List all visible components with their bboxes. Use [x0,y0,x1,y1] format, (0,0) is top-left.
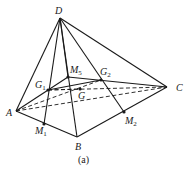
label-M2: M2 [124,115,137,128]
label-subscript: 5 [78,69,82,77]
label-main: D [54,5,63,16]
point-G2 [99,78,102,81]
label-G: G [78,90,85,101]
point-M5 [66,75,69,78]
point-G1 [46,88,49,91]
label-subscript: 2 [107,71,111,79]
segment-D-C [60,18,167,87]
label-C: C [176,82,183,93]
segment-M5-C [68,77,167,87]
label-G1: G1 [35,79,46,92]
tetrahedron-diagram: DABCM5G1G2GM1M2 (a) [0,0,188,171]
figure-caption: (a) [78,154,89,166]
label-main: G [100,66,107,77]
point-M2 [122,110,125,113]
label-subscript: 1 [42,84,46,92]
label-subscript: 1 [43,130,47,138]
label-main: G [35,79,42,90]
label-M5: M5 [69,64,82,77]
label-B: B [75,141,81,152]
label-main: B [75,141,81,152]
label-M1: M1 [34,125,47,138]
label-subscript: 2 [133,120,137,128]
label-D: D [54,5,63,16]
label-G2: G2 [100,66,111,79]
segment-D-M5 [60,18,68,77]
label-main: G [78,90,85,101]
label-main: A [5,107,13,118]
label-A: A [5,107,13,118]
label-main: C [176,82,183,93]
